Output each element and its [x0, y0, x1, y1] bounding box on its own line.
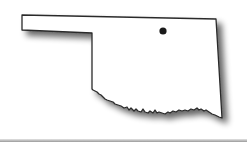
state-outline — [22, 15, 222, 118]
bottom-divider — [0, 139, 247, 142]
oklahoma-map — [0, 0, 247, 142]
location-marker — [159, 27, 166, 34]
